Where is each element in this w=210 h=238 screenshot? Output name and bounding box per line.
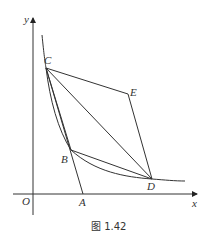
figure-canvas: y x O C E B D A 图 1.42 bbox=[0, 0, 210, 238]
figure-caption: 图 1.42 bbox=[91, 221, 126, 232]
segment-bd bbox=[71, 150, 152, 179]
point-d-label: D bbox=[146, 180, 155, 192]
point-e-label: E bbox=[129, 86, 137, 98]
x-axis-label: x bbox=[191, 197, 197, 209]
y-axis-label: y bbox=[23, 13, 29, 25]
point-b-label: B bbox=[61, 153, 68, 165]
point-c-label: C bbox=[44, 54, 52, 66]
origin-label: O bbox=[22, 195, 30, 207]
point-a-label: A bbox=[78, 196, 86, 208]
